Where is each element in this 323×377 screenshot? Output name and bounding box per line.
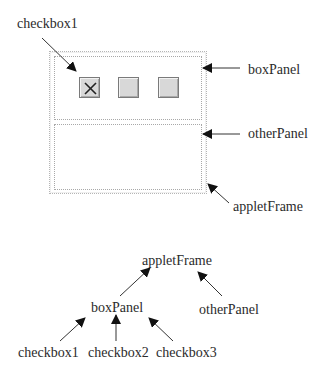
arrow-icon [149,318,173,341]
arrow-icon [60,318,85,341]
arrow-icon [208,184,229,203]
arrow-icon [42,38,76,71]
arrows-overlay [0,0,323,377]
arrow-icon [198,272,222,296]
arrow-icon [120,268,150,296]
